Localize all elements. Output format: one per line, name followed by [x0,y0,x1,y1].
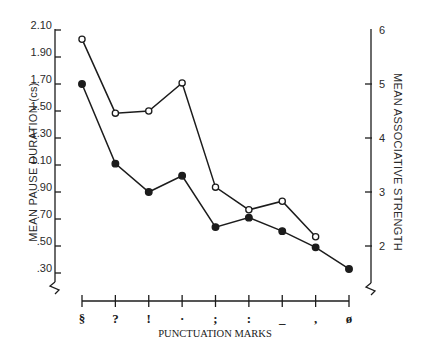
y2-tick-label: 6 [379,24,385,36]
associative-strength-line [82,39,316,237]
filled-data-point [312,244,319,251]
y2-tick-label: 2 [379,240,385,252]
open-data-point [146,108,152,114]
y2-axis-title: MEAN ASSOCIATIVE STRENGTH [392,73,404,251]
x-tick-label: · [180,311,184,326]
chart: 2.101.901.701.501.301.10.90.70.50.30 654… [0,0,422,353]
y2-tick-label: 4 [379,132,385,144]
x-tick-label: ? [112,311,119,326]
filled-data-point [279,228,286,235]
y-axis-title: MEAN PAUSE DURATION (cs) [27,82,39,242]
open-data-point [179,80,185,86]
y2-tick-label: 5 [379,78,385,90]
filled-data-point [179,173,186,180]
open-data-point [212,184,218,190]
x-axis: §?!·;:_,ø [79,295,353,326]
y-tick-label: .30 [37,262,52,274]
x-tick-label: _ [278,311,286,326]
x-tick-label: ø [346,311,353,326]
open-data-point [79,36,85,42]
y-tick-label: 2.10 [31,19,52,31]
y2-tick-label: 3 [379,186,385,198]
open-data-point [279,198,285,204]
x-tick-label: ! [147,311,151,326]
pause-duration-line [82,84,349,269]
filled-data-point [145,189,152,196]
x-tick-label: § [79,311,86,326]
x-tick-label: , [314,311,317,326]
x-tick-label: ; [213,311,217,326]
open-data-point [246,207,252,213]
x-axis-title: PUNCTUATION MARKS [158,328,272,339]
filled-data-point [112,160,119,167]
plot-area [79,36,353,272]
open-data-point [313,234,319,240]
y-tick-label: 1.90 [31,46,52,58]
open-data-point [112,110,118,116]
filled-data-point [246,214,253,221]
filled-data-point [79,81,86,88]
right-y-axis: 65432 [365,24,385,295]
filled-data-point [346,266,353,273]
filled-data-point [212,224,219,231]
x-tick-label: : [247,311,251,326]
